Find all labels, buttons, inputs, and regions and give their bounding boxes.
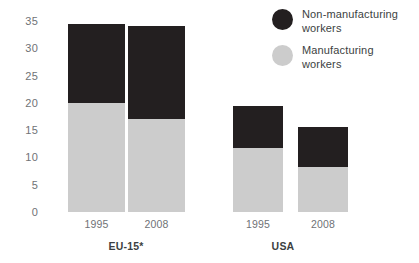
x-axis-label-eu15-1995: 1995 [84, 218, 108, 230]
group-label-usa: USA [272, 240, 295, 252]
y-axis-tick: 25 [25, 70, 38, 82]
legend-label-non-manufacturing: Non-manufacturing workers [302, 8, 398, 35]
y-axis-tick: 35 [25, 15, 38, 27]
y-axis-tick: 15 [25, 124, 38, 136]
legend-label-line2: workers [302, 58, 342, 70]
bar-segment-non-manufacturing [68, 24, 125, 103]
y-axis-tick: 5 [32, 179, 38, 191]
y-axis-tick: 20 [25, 97, 38, 109]
bar-usa-2008[interactable] [298, 127, 348, 212]
bar-segment-non-manufacturing [298, 127, 348, 167]
x-axis-label-eu15-2008: 2008 [144, 218, 168, 230]
chart-container: 35 30 25 20 15 10 5 0 1995 2008 1995 200 [0, 0, 419, 263]
bar-segment-non-manufacturing [128, 26, 185, 118]
legend-swatch-non-manufacturing-icon [272, 9, 293, 30]
legend-item-manufacturing[interactable]: Manufacturing workers [272, 44, 419, 71]
y-axis-tick: 30 [25, 42, 38, 54]
x-axis-label-usa-1995: 1995 [246, 218, 270, 230]
bar-eu15-2008[interactable] [128, 26, 185, 212]
bar-segment-manufacturing [128, 119, 185, 212]
bar-usa-1995[interactable] [233, 106, 283, 212]
x-axis-label-usa-2008: 2008 [311, 218, 335, 230]
bar-segment-manufacturing [233, 148, 283, 212]
y-axis: 35 30 25 20 15 10 5 0 [0, 0, 48, 263]
legend-label-line1: Non-manufacturing [302, 8, 398, 20]
legend-label-line2: workers [302, 22, 342, 34]
legend-swatch-manufacturing-icon [272, 45, 293, 66]
legend-item-non-manufacturing[interactable]: Non-manufacturing workers [272, 8, 419, 35]
group-label-eu15: EU-15* [108, 240, 143, 252]
bar-segment-non-manufacturing [233, 106, 283, 148]
legend: Non-manufacturing workers Manufacturing … [272, 8, 419, 80]
bar-segment-manufacturing [298, 167, 348, 212]
y-axis-tick: 0 [32, 206, 38, 218]
bar-eu15-1995[interactable] [68, 24, 125, 212]
bar-segment-manufacturing [68, 103, 125, 212]
y-axis-tick: 10 [25, 151, 38, 163]
legend-label-manufacturing: Manufacturing workers [302, 44, 374, 71]
legend-label-line1: Manufacturing [302, 44, 374, 56]
